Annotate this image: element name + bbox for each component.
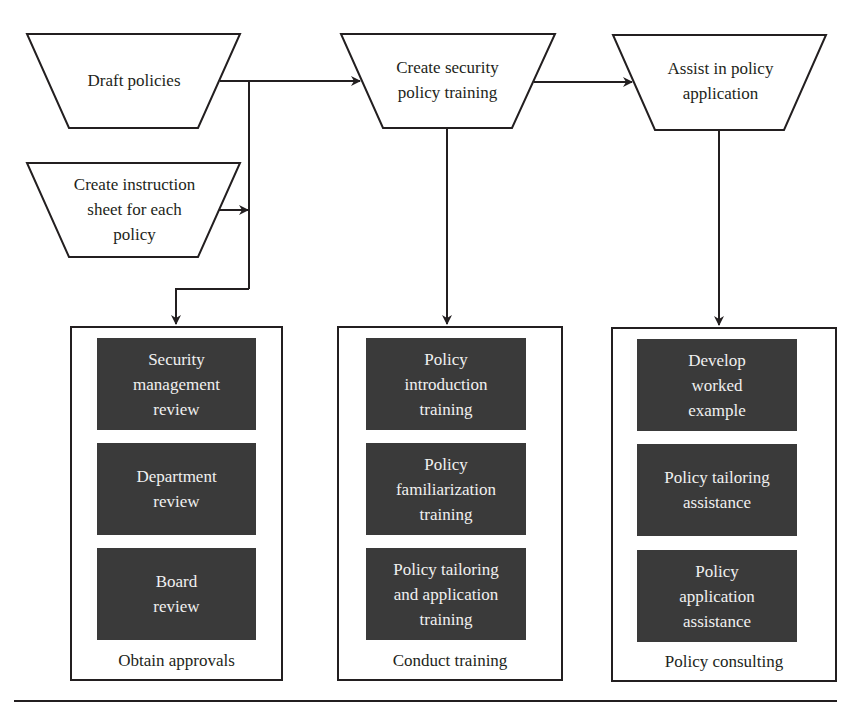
group-caption-obtain-approvals: Obtain approvals [70, 650, 283, 672]
task-board-review: Board review [97, 548, 256, 640]
task-develop-worked-example: Develop worked example [637, 339, 797, 431]
task-policy-familiarization-training: Policy familiarization training [366, 443, 526, 535]
bottom-rule-divider [14, 700, 837, 702]
group-caption-conduct-training: Conduct training [337, 650, 563, 672]
task-policy-introduction-training: Policy introduction training [366, 338, 526, 430]
task-policy-tailoring-application-training: Policy tailoring and application trainin… [366, 548, 526, 640]
step-create-instruction-sheet: Create instruction sheet for each policy [42, 172, 227, 247]
group-caption-policy-consulting: Policy consulting [611, 651, 837, 673]
step-draft-policies: Draft policies [69, 68, 199, 93]
step-assist-policy-application: Assist in policy application [643, 56, 798, 106]
task-policy-application-assistance: Policy application assistance [637, 550, 797, 642]
task-department-review: Department review [97, 443, 256, 535]
step-create-security-policy-training: Create security policy training [370, 55, 525, 105]
task-policy-tailoring-assistance: Policy tailoring assistance [637, 444, 797, 536]
task-security-management-review: Security management review [97, 338, 256, 430]
